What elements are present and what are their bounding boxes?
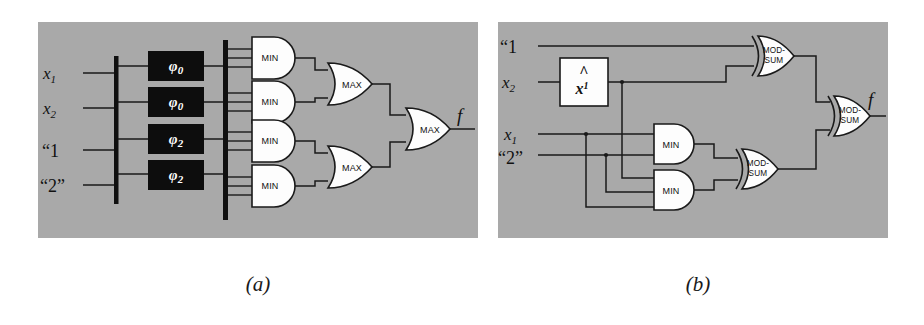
bus2-to-min-wires <box>228 49 252 195</box>
modsum-b-out[interactable]: MOD- SUM <box>828 96 870 136</box>
bus1-to-blocks-wires <box>118 66 148 174</box>
modsum-b-out-line1: MOD- <box>839 106 862 115</box>
max-a-2[interactable]: MAX <box>328 146 372 188</box>
in-b-const1: “1 <box>500 37 517 57</box>
max-a-1[interactable]: MAX <box>328 63 372 105</box>
min-a-2[interactable]: MIN <box>252 81 295 123</box>
figure-root: φ0 φ0 φ2 φ2 <box>0 0 924 325</box>
literal-block-group-a: φ0 φ0 φ2 φ2 <box>148 51 204 190</box>
max-a-2-label: MAX <box>342 163 362 173</box>
modsum-b-2-line1: MOD- <box>747 159 770 168</box>
max-a-out[interactable]: MAX <box>406 108 450 150</box>
phi-block-3-sub: 2 <box>177 137 184 149</box>
phi-block-4-sub: 2 <box>177 173 184 185</box>
modsum-b-1[interactable]: MOD- SUM <box>752 36 794 76</box>
modsum-to-out-wires <box>778 56 830 169</box>
in-b-x1: x1 <box>503 125 517 146</box>
min-gate-group-a: MIN MIN MIN MIN <box>252 37 295 207</box>
phi-block-2-sub: 0 <box>178 100 184 112</box>
modsum-b-out-line2: SUM <box>841 116 860 125</box>
min-a-1[interactable]: MIN <box>252 37 295 79</box>
in-const2: “2” <box>40 176 65 196</box>
min-a-3[interactable]: MIN <box>252 120 295 162</box>
caption-a: (a) <box>218 272 298 297</box>
min-a-3-label: MIN <box>261 136 278 146</box>
min-a-4-label: MIN <box>261 181 278 191</box>
phi-block-4[interactable]: φ2 <box>148 160 204 190</box>
min-b-2-label: MIN <box>662 186 679 196</box>
phi-block-3[interactable]: φ2 <box>148 124 204 154</box>
input-bus-bar-1 <box>114 56 119 204</box>
modsum-b-1-line1: MOD- <box>763 46 786 55</box>
panel-a-svg: φ0 φ0 φ2 φ2 <box>38 22 478 238</box>
in-b-const2: “2” <box>498 148 523 168</box>
in-x2: x2 <box>42 99 57 120</box>
min-gate-group-b: MIN MIN <box>654 124 694 210</box>
min-a-2-label: MIN <box>261 97 278 107</box>
min-b-2[interactable]: MIN <box>654 170 694 210</box>
out-f-b: f <box>868 89 876 110</box>
min-a-1-label: MIN <box>261 53 278 63</box>
max-a-out-label: MAX <box>420 125 440 135</box>
modsum-gate-group-b: MOD- SUM MOD- SUM <box>736 36 794 189</box>
wire-x1 <box>538 132 654 207</box>
blocks-to-bus2-wires <box>204 66 224 174</box>
in-x1: x1 <box>42 64 56 85</box>
phi-block-1-sub: 0 <box>178 64 184 76</box>
min-a-4[interactable]: MIN <box>252 165 295 207</box>
phi-block-2-base: φ <box>169 94 178 110</box>
caption-b: (b) <box>658 272 738 297</box>
min-b-1[interactable]: MIN <box>654 124 694 164</box>
max-to-out-wires-a <box>372 84 406 167</box>
input-wires-a <box>83 73 116 185</box>
out-f-a: f <box>457 105 465 126</box>
xhat-box-hat: ^ <box>579 63 588 80</box>
input-bus-bar-2 <box>223 40 228 220</box>
phi-block-3-base: φ <box>169 131 178 147</box>
min-to-max-wires-a <box>295 58 328 186</box>
panel-b-svg: ^ x1 <box>498 22 888 238</box>
min-b-1-label: MIN <box>662 140 679 150</box>
phi-block-2[interactable]: φ0 <box>148 87 204 117</box>
modsum-b-2[interactable]: MOD- SUM <box>736 149 778 189</box>
panel-a: φ0 φ0 φ2 φ2 <box>38 22 478 238</box>
in-const1: “1 <box>42 141 59 161</box>
min-to-modsum2-wires <box>694 144 738 190</box>
wire-const2 <box>538 153 654 192</box>
in-b-x2: x2 <box>501 73 516 94</box>
phi-block-1-base: φ <box>169 58 178 74</box>
max-a-1-label: MAX <box>342 80 362 90</box>
phi-block-4-base: φ <box>169 167 178 183</box>
panel-b: ^ x1 <box>498 22 888 238</box>
modsum-b-2-line2: SUM <box>749 169 768 178</box>
phi-block-1[interactable]: φ0 <box>148 51 204 81</box>
max-gate-group-a: MAX MAX <box>328 63 372 188</box>
modsum-b-1-line2: SUM <box>765 56 784 65</box>
xhat-box[interactable]: ^ x1 <box>560 58 608 106</box>
